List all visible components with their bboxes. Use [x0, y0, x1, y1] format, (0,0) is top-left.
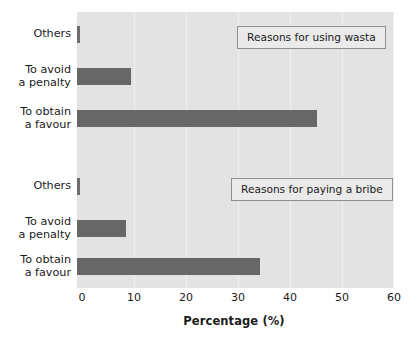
plot-area: Reasons for using wasta Reasons for payi… — [77, 12, 394, 288]
bar-bribe-avoid-penalty — [77, 220, 126, 237]
xtick-20: 20 — [179, 291, 193, 304]
legend-bribe: Reasons for paying a bribe — [231, 178, 393, 201]
gridline-10 — [134, 12, 135, 288]
xtick-30: 30 — [231, 291, 245, 304]
gridline-20 — [186, 12, 187, 288]
bar-bribe-others — [77, 178, 80, 195]
bar-wasta-others — [77, 26, 80, 43]
ylabel-wasta-obtain-favour: To obtain a favour — [0, 105, 71, 131]
gridline-60 — [393, 12, 394, 288]
xtick-60: 60 — [387, 291, 401, 304]
bar-bribe-obtain-favour — [77, 258, 260, 275]
xtick-10: 10 — [127, 291, 141, 304]
x-axis-title: Percentage (%) — [183, 314, 284, 328]
xtick-40: 40 — [283, 291, 297, 304]
ylabel-wasta-avoid-penalty: To avoid a penalty — [0, 63, 71, 89]
xtick-50: 50 — [335, 291, 349, 304]
gridline-30 — [238, 12, 239, 288]
ylabel-wasta-others: Others — [0, 27, 71, 40]
bar-wasta-avoid-penalty — [77, 68, 131, 85]
ylabel-bribe-others: Others — [0, 179, 71, 192]
bar-wasta-obtain-favour — [77, 110, 317, 127]
ylabel-bribe-obtain-favour: To obtain a favour — [0, 253, 71, 279]
xtick-0: 0 — [79, 291, 86, 304]
ylabel-bribe-avoid-penalty: To avoid a penalty — [0, 215, 71, 241]
bar-chart: Reasons for using wasta Reasons for payi… — [0, 0, 420, 348]
gridline-50 — [342, 12, 343, 288]
gridline-40 — [290, 12, 291, 288]
y-axis-labels: Others To avoid a penalty To obtain a fa… — [0, 12, 71, 288]
legend-wasta: Reasons for using wasta — [237, 26, 386, 49]
x-axis-title-wrap: Percentage (%) — [0, 314, 420, 328]
